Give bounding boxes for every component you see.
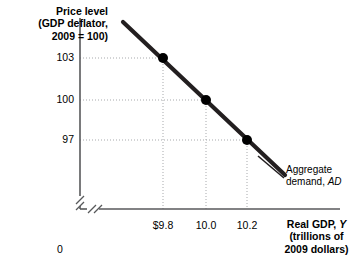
origin-label: 0: [50, 243, 70, 255]
annotation-symbol-ad: AD: [328, 176, 342, 187]
x-tick-label-10-2: 10.2: [227, 219, 267, 231]
aggregate-demand-annotation: Aggregatedemand, AD: [286, 164, 357, 188]
y-tick-label-100: 100: [44, 93, 74, 105]
data-point-10.0-100: [201, 95, 211, 105]
x-tick-label-10-0: 10.0: [186, 219, 226, 231]
x-axis-title-line-3: 2009 dollars): [284, 243, 348, 255]
y-tick-label-97: 97: [44, 133, 74, 145]
data-point-10.2-97: [242, 135, 252, 145]
gridlines-vertical: [163, 58, 247, 209]
annotation-line-1: Aggregate: [286, 164, 332, 175]
y-axis-title-line-3: 2009 = 100): [52, 30, 108, 42]
x-axis-title-line-2: (trillions of: [289, 230, 343, 242]
x-axis-title-line-1: Real GDP,: [287, 218, 339, 230]
x-tick-label-9-8: $9.8: [143, 219, 183, 231]
x-axis-title-symbol: Y: [339, 218, 346, 230]
data-point-9.8-103: [158, 53, 168, 63]
x-axis-title: Real GDP, Y(trillions of2009 dollars): [276, 218, 357, 255]
annotation-line-2: demand,: [286, 176, 328, 187]
aggregate-demand-chart: Price level(GDP deflator,2009 = 100) 103…: [0, 0, 357, 269]
y-tick-label-103: 103: [44, 51, 74, 63]
y-axis-title-line-2: (GDP deflator,: [38, 17, 108, 29]
y-axis-title: Price level(GDP deflator,2009 = 100): [0, 5, 108, 42]
y-axis-title-line-1: Price level: [56, 5, 108, 17]
